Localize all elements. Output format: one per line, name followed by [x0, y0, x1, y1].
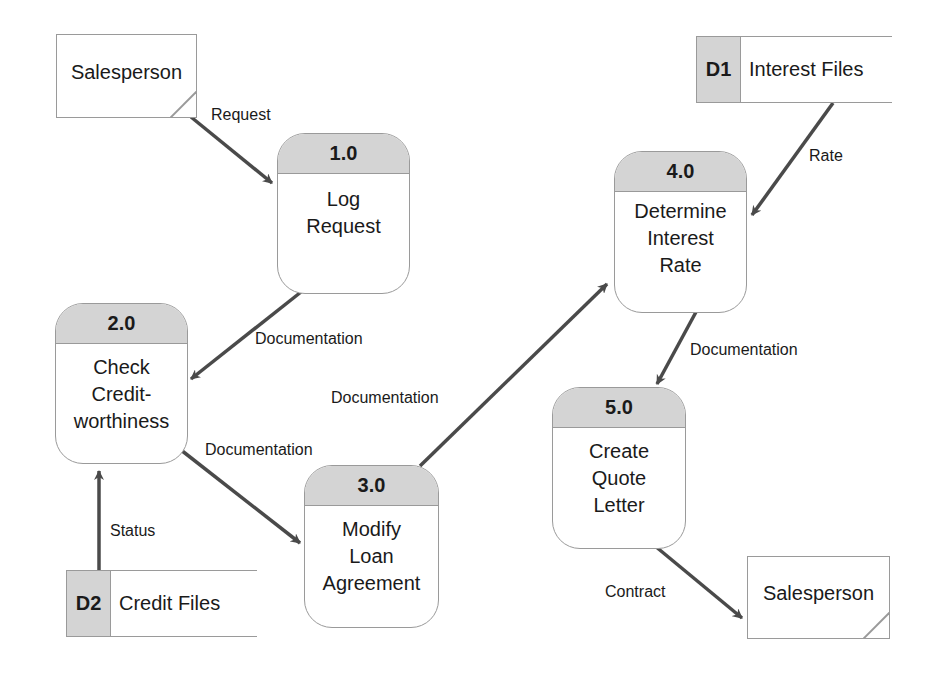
process-4-determine-interest-rate[interactable]: 4.0 Determine Interest Rate	[614, 151, 747, 313]
process-name-line: Log	[278, 186, 409, 213]
data-store-d2-credit-files[interactable]: D2 Credit Files	[66, 570, 257, 637]
process-name-line: Quote	[553, 465, 685, 492]
process-name: Modify Loan Agreement	[305, 506, 438, 597]
process-name: Determine Interest Rate	[615, 192, 746, 279]
external-entity-salesperson-sink[interactable]: Salesperson	[747, 556, 890, 639]
entity-corner-mark	[863, 612, 889, 638]
data-store-name: Credit Files	[111, 571, 220, 636]
process-name-line: Letter	[553, 492, 685, 519]
data-store-id: D2	[66, 571, 111, 636]
entity-corner-mark	[170, 91, 196, 117]
process-name-line: worthiness	[56, 408, 187, 435]
data-store-name: Interest Files	[741, 37, 863, 102]
flow-label-contract: Contract	[605, 583, 665, 601]
flow-label-status: Status	[110, 522, 155, 540]
process-name-line: Loan	[305, 543, 438, 570]
process-name: Create Quote Letter	[553, 428, 685, 519]
process-number: 1.0	[278, 134, 409, 174]
entity-label: Salesperson	[763, 582, 874, 605]
flow-label-documentation-3-4: Documentation	[331, 389, 439, 407]
process-number: 4.0	[615, 152, 746, 192]
entity-label: Salesperson	[71, 61, 182, 84]
flow-label-rate: Rate	[809, 147, 843, 165]
process-name-line: Modify	[305, 516, 438, 543]
process-name-line: Check	[56, 354, 187, 381]
process-2-check-creditworthiness[interactable]: 2.0 Check Credit- worthiness	[55, 303, 188, 464]
flow-label-documentation-2-3: Documentation	[205, 441, 313, 459]
process-name-line: Credit-	[56, 381, 187, 408]
flow-arrow-request	[191, 117, 272, 183]
process-number: 2.0	[56, 304, 187, 344]
process-name-line: Agreement	[305, 570, 438, 597]
flow-label-request: Request	[211, 106, 271, 124]
process-name-line: Request	[278, 213, 409, 240]
flow-label-documentation-1-2: Documentation	[255, 330, 363, 348]
external-entity-salesperson-source[interactable]: Salesperson	[56, 34, 197, 118]
flow-label-documentation-4-5: Documentation	[690, 341, 798, 359]
process-3-modify-loan-agreement[interactable]: 3.0 Modify Loan Agreement	[304, 465, 439, 628]
process-name: Log Request	[278, 174, 409, 240]
flow-arrow-contract	[655, 546, 742, 618]
process-name-line: Rate	[615, 252, 746, 279]
process-name-line: Determine	[615, 198, 746, 225]
process-name-line: Interest	[615, 225, 746, 252]
process-5-create-quote-letter[interactable]: 5.0 Create Quote Letter	[552, 387, 686, 549]
process-number: 5.0	[553, 388, 685, 428]
process-name-line: Create	[553, 438, 685, 465]
data-store-d1-interest-files[interactable]: D1 Interest Files	[696, 36, 892, 103]
process-number: 3.0	[305, 466, 438, 506]
data-store-id: D1	[696, 37, 741, 102]
flow-arrow-doc-2-3	[181, 450, 300, 543]
process-name: Check Credit- worthiness	[56, 344, 187, 435]
process-1-log-request[interactable]: 1.0 Log Request	[277, 133, 410, 294]
